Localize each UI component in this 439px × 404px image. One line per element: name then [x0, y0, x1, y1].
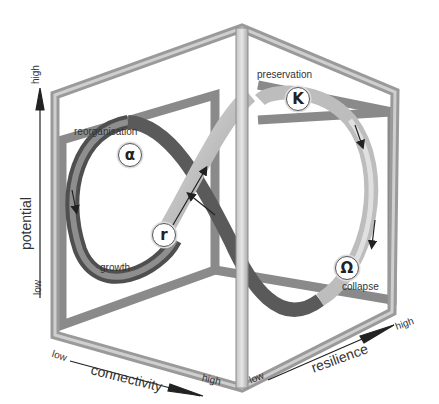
potential-low-label: low — [32, 280, 43, 295]
growth-label: growth — [100, 262, 130, 273]
potential-high-label: high — [30, 65, 41, 84]
alpha-phase-node: α — [118, 143, 142, 167]
k-phase-node: K — [286, 87, 310, 111]
adaptive-cycle-diagram: high potential low low connectivity high… — [0, 0, 439, 404]
potential-axis-label: potential — [18, 197, 34, 250]
cube-front-frame — [55, 28, 395, 388]
r-phase-node: r — [152, 223, 176, 247]
omega-phase-node: Ω — [335, 256, 359, 280]
cube-frame-and-ribbon — [0, 0, 439, 404]
preservation-label: preservation — [257, 69, 312, 80]
collapse-label: collapse — [342, 281, 379, 292]
reorganisation-label: reorganisation — [74, 126, 137, 137]
